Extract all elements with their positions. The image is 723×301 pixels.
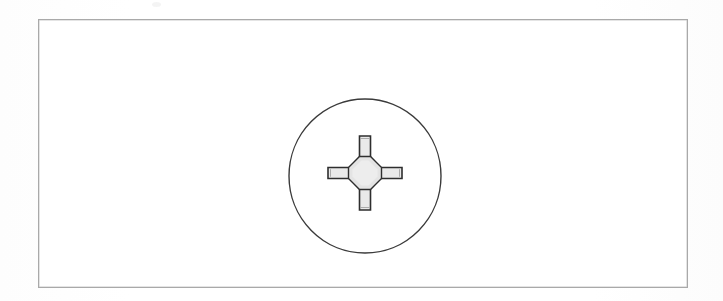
scan-artifact-speck (152, 2, 161, 7)
figure-border-frame (38, 19, 688, 288)
phillips-screw-head-icon (282, 89, 448, 263)
figure-canvas (0, 0, 723, 301)
